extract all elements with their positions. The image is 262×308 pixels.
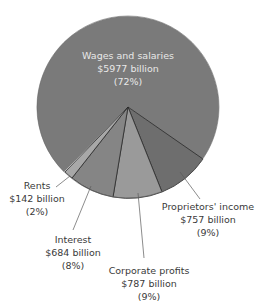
label-proprietors-name: Proprietors' income [158, 200, 258, 213]
label-interest-pct: (8%) [40, 259, 106, 272]
label-rents-name: Rents [3, 179, 71, 192]
label-corporate-value: $787 billion [104, 277, 194, 290]
label-interest-value: $684 billion [40, 246, 106, 259]
label-wages-name: Wages and salaries [78, 49, 178, 62]
label-interest-name: Interest [40, 233, 106, 246]
label-corporate-pct: (9%) [104, 290, 194, 303]
label-proprietors-value: $757 billion [158, 213, 258, 226]
leader-corporate [138, 193, 144, 258]
label-wages: Wages and salaries $5977 billion (72%) [78, 49, 178, 88]
label-proprietors-pct: (9%) [158, 226, 258, 239]
label-interest: Interest $684 billion (8%) [40, 233, 106, 272]
label-wages-pct: (72%) [78, 75, 178, 88]
label-rents-pct: (2%) [3, 205, 71, 218]
label-rents-value: $142 billion [3, 192, 71, 205]
leader-proprietors [180, 172, 200, 199]
leader-interest [73, 186, 91, 230]
label-rents: Rents $142 billion (2%) [3, 179, 71, 218]
label-corporate: Corporate profits $787 billion (9%) [104, 264, 194, 303]
label-proprietors: Proprietors' income $757 billion (9%) [158, 200, 258, 239]
label-wages-value: $5977 billion [78, 62, 178, 75]
label-corporate-name: Corporate profits [104, 264, 194, 277]
